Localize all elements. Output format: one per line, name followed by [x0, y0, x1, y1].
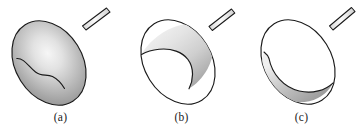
stem-tube-c	[330, 8, 356, 31]
balloon-diagram-b	[121, 0, 242, 112]
figure-panel-a: (a)	[0, 0, 121, 139]
figure-panel-b: (b)	[121, 0, 242, 139]
panel-label-a: (a)	[0, 110, 121, 124]
panel-label-b: (b)	[121, 110, 242, 124]
stem-tube-b	[209, 9, 235, 31]
figure-container: (a)	[0, 0, 362, 139]
stem-tube-a	[83, 8, 111, 30]
balloon-diagram-c	[241, 0, 362, 112]
figure-panel-c: (c)	[241, 0, 362, 139]
balloon-diagram-a	[0, 0, 121, 112]
panel-label-c: (c)	[241, 110, 362, 124]
